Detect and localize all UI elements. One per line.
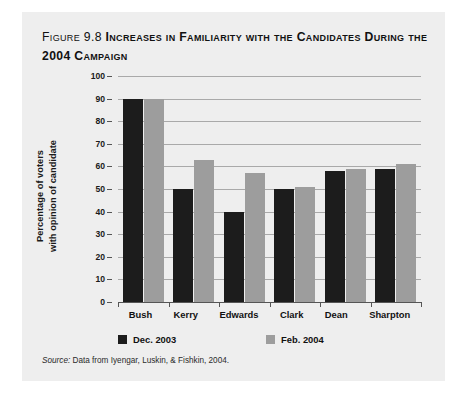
x-axis-tick — [320, 302, 321, 307]
y-axis-tick-label: 0 — [100, 297, 105, 307]
bar — [274, 189, 294, 302]
bar-group — [173, 76, 214, 302]
bar-series-container — [118, 76, 421, 302]
y-axis-tick-label: 70 — [95, 139, 105, 149]
source-prefix: Source: — [42, 356, 70, 365]
y-axis-tick-label: 50 — [95, 184, 105, 194]
x-axis-tick-label: Sharpton — [369, 309, 410, 320]
x-axis-tick-labels: BushKerryEdwardsClarkDeanSharpton — [118, 309, 421, 320]
x-axis-tick — [371, 302, 372, 307]
x-axis-tick-label: Kerry — [174, 309, 199, 320]
bar — [325, 171, 345, 302]
x-axis-tick-label: Clark — [280, 309, 303, 320]
figure-card: Figure 9.8 Increases in Familiarity with… — [22, 12, 445, 381]
legend-swatch — [266, 335, 275, 344]
bar — [245, 173, 265, 302]
bar-group — [123, 76, 164, 302]
x-axis-tick — [169, 302, 170, 307]
bar-chart: Percentage of voters with opinion of can… — [42, 70, 427, 332]
bar — [144, 99, 164, 302]
y-axis-tick-label: 100 — [91, 71, 105, 81]
x-axis-tick — [118, 302, 119, 307]
figure-number: Figure 9.8 — [42, 30, 102, 44]
legend-label: Dec. 2003 — [133, 334, 176, 345]
legend-label: Feb. 2004 — [281, 334, 324, 345]
x-axis-tick-label: Dean — [325, 309, 348, 320]
bar — [123, 99, 143, 302]
legend-item: Dec. 2003 — [118, 334, 266, 345]
bar — [396, 164, 416, 302]
x-axis-tick-label: Edwards — [219, 309, 258, 320]
bar-group — [274, 76, 315, 302]
x-axis-tick — [421, 302, 422, 307]
bar — [375, 169, 395, 302]
y-axis-tick-label: 20 — [95, 252, 105, 262]
y-axis-tick-label: 60 — [95, 161, 105, 171]
x-axis-tick — [270, 302, 271, 307]
bar — [295, 187, 315, 302]
legend-swatch — [118, 335, 127, 344]
y-axis-tick-label: 40 — [95, 207, 105, 217]
y-axis-tick-label: 80 — [95, 116, 105, 126]
bar-group — [375, 76, 416, 302]
source-text: Data from Iyengar, Luskin, & Fishkin, 20… — [73, 356, 230, 365]
bar-group — [325, 76, 366, 302]
y-axis-label-line2: with opinion of candidate — [47, 98, 60, 294]
x-axis-tick — [219, 302, 220, 307]
x-axis-ticks — [118, 302, 421, 307]
bar — [346, 169, 366, 302]
y-axis-label: Percentage of voters with opinion of can… — [34, 98, 64, 294]
bar — [173, 189, 193, 302]
y-axis-label-line1: Percentage of voters — [34, 98, 47, 294]
x-axis-tick-label: Bush — [129, 309, 152, 320]
bar-group — [224, 76, 265, 302]
bar — [194, 160, 214, 302]
source-note: Source: Data from Iyengar, Luskin, & Fis… — [42, 356, 229, 365]
y-axis-tick-label: 30 — [95, 229, 105, 239]
y-axis-tick-label: 10 — [95, 274, 105, 284]
bar — [224, 212, 244, 302]
y-axis-tick-labels: 0102030405060708090100 — [78, 76, 112, 302]
legend-item: Feb. 2004 — [266, 334, 324, 345]
chart-legend: Dec. 2003Feb. 2004 — [118, 334, 408, 345]
y-axis-tick-label: 90 — [95, 94, 105, 104]
plot-area — [118, 76, 421, 302]
figure-title: Figure 9.8 Increases in Familiarity with… — [42, 28, 432, 66]
